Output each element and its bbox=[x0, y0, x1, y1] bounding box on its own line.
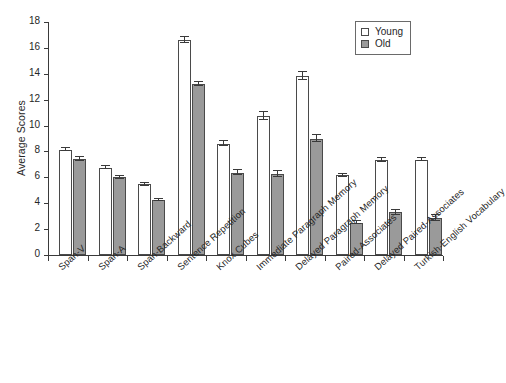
y-tick-label: 0 bbox=[34, 248, 40, 259]
x-tick bbox=[206, 256, 207, 261]
legend-label-old: Old bbox=[375, 38, 391, 49]
error-bar-cap bbox=[75, 160, 84, 161]
error-bar-cap bbox=[154, 200, 163, 201]
y-axis-line bbox=[48, 22, 49, 255]
y-tick: 14 bbox=[44, 74, 49, 75]
error-bar-cap bbox=[259, 111, 268, 112]
x-tick bbox=[127, 256, 128, 261]
error-bar-cap bbox=[115, 175, 124, 176]
y-tick: 12 bbox=[44, 100, 49, 101]
bar-group bbox=[178, 22, 206, 255]
y-tick-label: 16 bbox=[29, 41, 40, 52]
bar-group bbox=[99, 22, 127, 255]
bar-young bbox=[138, 184, 151, 255]
error-bar-cap bbox=[298, 79, 307, 80]
legend-label-young: Young bbox=[375, 26, 403, 37]
error-bar-cap bbox=[115, 178, 124, 179]
error-bar-cap bbox=[338, 173, 347, 174]
y-tick: 10 bbox=[44, 126, 49, 127]
bar-group bbox=[138, 22, 166, 255]
y-tick: 18 bbox=[44, 22, 49, 23]
error-bar-cap bbox=[377, 161, 386, 162]
error-bar-cap bbox=[338, 176, 347, 177]
x-tick bbox=[167, 256, 168, 261]
legend-swatch-young-icon bbox=[361, 28, 369, 36]
error-bar-cap bbox=[194, 85, 203, 86]
error-bar-cap bbox=[61, 147, 70, 148]
error-bar-cap bbox=[101, 165, 110, 166]
legend: Young Old bbox=[355, 21, 411, 55]
error-bar-cap bbox=[391, 209, 400, 210]
bar-young bbox=[375, 160, 388, 255]
legend-item-young: Young bbox=[361, 26, 403, 37]
y-tick-label: 12 bbox=[29, 93, 40, 104]
bar-young bbox=[59, 150, 72, 255]
error-bar-cap bbox=[154, 198, 163, 199]
y-tick: 16 bbox=[44, 48, 49, 49]
legend-swatch-old-icon bbox=[361, 40, 369, 48]
y-tick: 6 bbox=[44, 177, 49, 178]
y-tick-label: 6 bbox=[34, 170, 40, 181]
bar-group bbox=[59, 22, 87, 255]
x-tick bbox=[48, 256, 49, 261]
error-bar-cap bbox=[259, 119, 268, 120]
error-bar-cap bbox=[377, 157, 386, 158]
y-tick-label: 2 bbox=[34, 222, 40, 233]
bar-old bbox=[192, 84, 205, 255]
error-bar-cap bbox=[273, 176, 282, 177]
x-tick bbox=[246, 256, 247, 261]
bar-old bbox=[73, 159, 86, 255]
x-tick bbox=[285, 256, 286, 261]
x-tick bbox=[364, 256, 365, 261]
y-tick-label: 4 bbox=[34, 196, 40, 207]
y-tick: 8 bbox=[44, 151, 49, 152]
error-bar-cap bbox=[180, 42, 189, 43]
bar-young bbox=[99, 168, 112, 255]
error-bar-cap bbox=[140, 185, 149, 186]
y-tick: 2 bbox=[44, 229, 49, 230]
y-tick-label: 8 bbox=[34, 144, 40, 155]
error-bar-cap bbox=[417, 157, 426, 158]
y-tick-label: 18 bbox=[29, 15, 40, 26]
error-bar-cap bbox=[233, 169, 242, 170]
error-bar-cap bbox=[75, 156, 84, 157]
error-bar-cap bbox=[298, 71, 307, 72]
y-tick-label: 14 bbox=[29, 67, 40, 78]
bar-young bbox=[415, 160, 428, 255]
legend-item-old: Old bbox=[361, 38, 403, 49]
error-bar-cap bbox=[219, 140, 228, 141]
error-bar-cap bbox=[219, 145, 228, 146]
y-tick: 4 bbox=[44, 203, 49, 204]
error-bar-cap bbox=[140, 182, 149, 183]
bar-group bbox=[257, 22, 285, 255]
error-bar-cap bbox=[180, 36, 189, 37]
error-bar-cap bbox=[61, 150, 70, 151]
x-tick bbox=[404, 256, 405, 261]
y-tick-label: 10 bbox=[29, 119, 40, 130]
error-bar-cap bbox=[233, 174, 242, 175]
error-bar-cap bbox=[273, 170, 282, 171]
error-bar-cap bbox=[312, 141, 321, 142]
x-tick bbox=[443, 256, 444, 261]
x-tick bbox=[325, 256, 326, 261]
y-axis-title: Average Scores bbox=[15, 73, 27, 203]
error-bar-cap bbox=[101, 168, 110, 169]
error-bar-cap bbox=[194, 81, 203, 82]
error-bar-cap bbox=[312, 134, 321, 135]
x-tick bbox=[88, 256, 89, 261]
error-bar-cap bbox=[417, 160, 426, 161]
